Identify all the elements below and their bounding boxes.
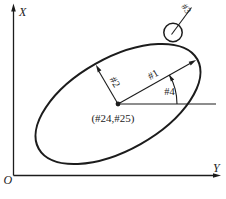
origin-label: O — [4, 173, 13, 187]
center-coordinates-label: (#24,#25) — [91, 112, 134, 125]
linework-group — [11, 4, 221, 189]
angle-label: #4 — [164, 86, 175, 97]
semi-minor-arrowhead-icon — [96, 65, 102, 73]
y-axis-label: Y — [213, 161, 221, 175]
x-axis-arrowhead-icon — [11, 4, 16, 12]
angle-arc-arrowhead-icon — [169, 75, 174, 82]
center-dot — [116, 102, 121, 107]
x-axis-label: X — [18, 5, 27, 19]
semi-minor-label: #2 — [108, 75, 123, 90]
semi-major-label: #1 — [146, 67, 161, 82]
ellipse-diagram: X Y O #1 #2 #3 #4 (#24,#25) — [0, 0, 226, 199]
semi-major-arrowhead-icon — [189, 60, 197, 66]
diagram-canvas: X Y O #1 #2 #3 #4 (#24,#25) — [0, 0, 226, 199]
circle-radius-label: #3 — [179, 2, 193, 16]
